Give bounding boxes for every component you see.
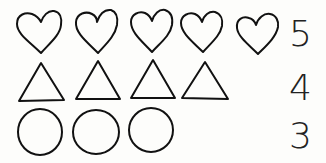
triangle-icon <box>76 61 120 99</box>
circle-count-label: 3 <box>289 118 312 154</box>
triangle-icon <box>131 60 175 98</box>
circle-icon <box>18 109 62 155</box>
circle-icon <box>129 108 173 152</box>
triangle-icon <box>182 62 228 99</box>
hearts-row <box>17 10 278 54</box>
heart-icon <box>76 10 117 53</box>
shape-count-diagram <box>0 0 326 163</box>
circle-icon <box>73 110 119 154</box>
heart-icon <box>237 14 278 54</box>
heart-icon <box>181 12 222 52</box>
triangle-icon <box>19 63 64 101</box>
circles-row <box>18 108 173 155</box>
triangles-row <box>19 60 228 101</box>
triangle-count-label: 4 <box>289 70 312 106</box>
heart-count-label: 5 <box>289 16 312 52</box>
heart-icon <box>17 11 61 53</box>
heart-icon <box>131 10 172 52</box>
